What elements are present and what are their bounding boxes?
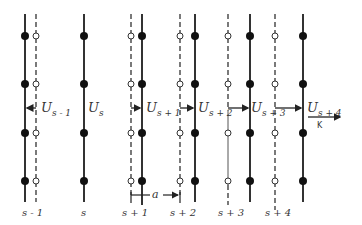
spacing-label: a xyxy=(152,188,159,201)
displacement-label-s+1: Us + 1 xyxy=(146,100,181,118)
plane-s xyxy=(80,14,88,202)
longitudinal-wave-diagram: a K Us - 1 Us Us + 1 Us + 2 Us + 3 Us + … xyxy=(0,0,362,225)
displacement-label-s-1: Us - 1 xyxy=(41,100,71,118)
plane-s-minus-1 xyxy=(21,14,39,202)
plane-label-s: s xyxy=(81,207,86,218)
plane-label-s-1: s - 1 xyxy=(22,207,43,218)
displacement-label-s+3: Us + 3 xyxy=(251,100,286,118)
wavevector-label: K xyxy=(317,121,323,130)
plane-s-plus-1 xyxy=(128,14,146,205)
plane-label-s+4: s + 4 xyxy=(265,207,291,218)
plane-label-s+2: s + 2 xyxy=(170,207,196,218)
wavevector-arrow: K xyxy=(308,117,340,130)
displacement-label-s: Us xyxy=(88,100,104,118)
displacement-label-s+4: Us + 4 xyxy=(307,100,342,118)
lattice-spacing-indicator: a xyxy=(131,188,180,201)
plane-label-s+1: s + 1 xyxy=(122,207,148,218)
plane-label-s+3: s + 3 xyxy=(218,207,244,218)
